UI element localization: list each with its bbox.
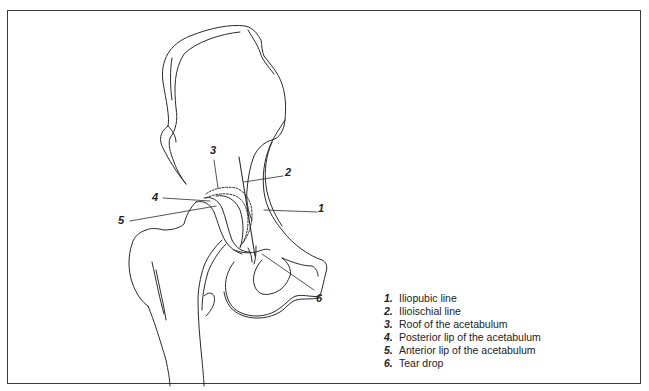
- legend-item: 2.Ilioischial line: [384, 305, 541, 318]
- legend-item: 1.Iliopubic line: [384, 292, 541, 305]
- acetabulum: [196, 187, 252, 254]
- legend-item: 5.Anterior lip of the acetabulum: [384, 344, 541, 357]
- legend-item: 6.Tear drop: [384, 357, 541, 370]
- femur-outline: [129, 202, 226, 386]
- legend: 1.Iliopubic line 2.Ilioischial line 3.Ro…: [384, 292, 541, 371]
- legend-item: 4.Posterior lip of the acetabulum: [384, 331, 541, 344]
- callout-4: 4: [152, 192, 158, 203]
- callout-5: 5: [118, 215, 124, 226]
- legend-item: 3.Roof of the acetabulum: [384, 318, 541, 331]
- callout-2: 2: [285, 167, 291, 178]
- callout-1: 1: [318, 203, 324, 214]
- callout-3: 3: [210, 145, 216, 156]
- callout-6: 6: [316, 293, 322, 304]
- leader-lines: [130, 160, 317, 290]
- hip-joint-illustration: [0, 0, 649, 391]
